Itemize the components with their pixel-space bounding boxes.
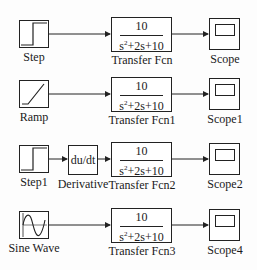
sine-wave-icon: [20, 212, 48, 238]
transfer-fcn3-block[interactable]: 10 s2+2s+10: [111, 208, 172, 243]
scope1-label: Scope1: [207, 113, 242, 126]
transfer-fcn1-block[interactable]: 10 s2+2s+10: [111, 77, 172, 112]
step1-block-label: Step1: [20, 176, 47, 189]
step-block[interactable]: [19, 20, 49, 48]
scope-icon: [215, 149, 235, 161]
derivative-icon: du/dt: [69, 153, 97, 168]
tf-numerator: 10: [112, 145, 171, 158]
tf-numerator: 10: [112, 20, 171, 33]
ramp-block[interactable]: [19, 80, 49, 108]
sine-wave-label: Sine Wave: [8, 242, 59, 255]
tf-fraction-bar: [120, 35, 163, 36]
tf-fraction-bar: [120, 160, 163, 161]
step1-block[interactable]: [19, 145, 49, 173]
scope4-label: Scope4: [207, 244, 242, 257]
scope-icon: [215, 215, 235, 227]
tf-numerator: 10: [112, 211, 171, 224]
tf-fraction-bar: [120, 95, 163, 96]
step-icon: [20, 21, 48, 47]
scope-icon: [215, 24, 235, 36]
scope4-block[interactable]: [209, 209, 240, 241]
tf-denominator: s2+2s+10: [112, 162, 171, 178]
ramp-icon: [20, 81, 48, 107]
transfer-fcn2-label: Transfer Fcn2: [108, 179, 175, 192]
transfer-fcn3-label: Transfer Fcn3: [108, 245, 175, 258]
tf-denominator: s2+2s+10: [112, 228, 171, 244]
sine-wave-block[interactable]: [19, 211, 49, 239]
scope2-block[interactable]: [209, 143, 240, 175]
transfer-fcn-label: Transfer Fcn: [111, 54, 172, 67]
tf-fraction-bar: [120, 226, 163, 227]
tf-numerator: 10: [112, 80, 171, 93]
transfer-fcn1-label: Transfer Fcn1: [108, 114, 175, 127]
simulink-canvas: Step 10 s2+2s+10 Transfer Fcn Scope Ramp…: [0, 0, 257, 270]
scope1-block[interactable]: [209, 78, 240, 110]
scope2-label: Scope2: [207, 178, 242, 191]
scope-block[interactable]: [209, 18, 240, 50]
derivative-block[interactable]: du/dt: [68, 145, 98, 175]
scope-icon: [215, 84, 235, 96]
scope-label: Scope: [210, 53, 239, 66]
tf-denominator: s2+2s+10: [112, 97, 171, 113]
derivative-label: Derivative: [58, 178, 109, 191]
transfer-fcn-block[interactable]: 10 s2+2s+10: [111, 17, 172, 52]
step-icon: [20, 146, 48, 172]
ramp-block-label: Ramp: [20, 111, 49, 124]
tf-denominator: s2+2s+10: [112, 37, 171, 53]
transfer-fcn2-block[interactable]: 10 s2+2s+10: [111, 142, 172, 177]
step-block-label: Step: [23, 51, 44, 64]
